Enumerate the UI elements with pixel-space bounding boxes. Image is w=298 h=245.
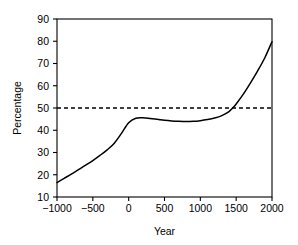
x-tick-label: 1000 <box>189 202 213 214</box>
y-axis-ticks <box>53 19 57 197</box>
x-tick-label: 0 <box>126 202 132 214</box>
x-tick-label: −500 <box>81 202 105 214</box>
y-tick-label: 10 <box>37 191 49 203</box>
y-tick-label: 50 <box>37 102 49 114</box>
y-tick-label: 30 <box>37 146 49 158</box>
x-axis-ticks <box>57 197 272 201</box>
y-tick-label: 70 <box>37 57 49 69</box>
x-tick-label: 500 <box>156 202 174 214</box>
y-tick-label: 40 <box>37 124 49 136</box>
y-axis-title: Percentage <box>11 81 23 135</box>
y-tick-label: 20 <box>37 169 49 181</box>
x-axis-title: Year <box>154 225 176 237</box>
y-axis-tick-labels: 90 80 70 60 50 40 30 20 10 <box>37 13 49 203</box>
x-tick-label: 1500 <box>224 202 248 214</box>
line-chart: 90 80 70 60 50 40 30 20 10 −1000 −500 0 … <box>0 0 298 245</box>
x-tick-label: 2000 <box>260 202 284 214</box>
y-tick-label: 80 <box>37 35 49 47</box>
y-tick-label: 60 <box>37 80 49 92</box>
x-tick-label: −1000 <box>42 202 72 214</box>
x-axis-tick-labels: −1000 −500 0 500 1000 1500 2000 <box>42 202 284 214</box>
chart-figure: 90 80 70 60 50 40 30 20 10 −1000 −500 0 … <box>0 0 298 245</box>
y-tick-label: 90 <box>37 13 49 25</box>
